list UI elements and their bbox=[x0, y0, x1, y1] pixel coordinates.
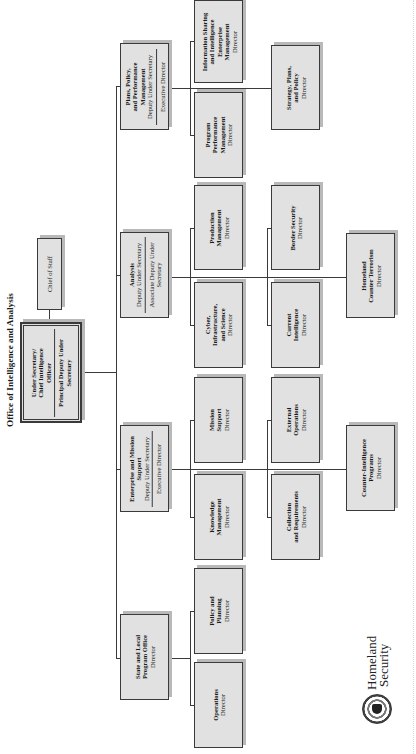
chart-title: Office of Intelligence and Analysis bbox=[4, 285, 16, 435]
box-name: External bbox=[284, 379, 291, 461]
homeland-counter-terrorism-box: Homeland Counter Terrorism Director bbox=[346, 233, 395, 318]
connector-state-main bbox=[169, 658, 190, 659]
connector-analysis-bracket1 bbox=[190, 228, 191, 325]
box-name: Planning bbox=[215, 570, 222, 652]
logo-line-2: Security bbox=[378, 620, 390, 690]
box-name: Program bbox=[204, 94, 211, 176]
box-name: Homeland bbox=[359, 235, 366, 317]
box-name: Management bbox=[222, 2, 229, 82]
state-local-program-office-box: State and Local Program Office Director bbox=[120, 614, 169, 700]
operations-box: Operations Director bbox=[194, 662, 243, 748]
external-operations-box: External Operations Director bbox=[271, 377, 320, 463]
cyber-infrastructure-box: Cyber, Infrastructure, and Science Direc… bbox=[194, 282, 243, 368]
box-name: and Policy bbox=[292, 48, 299, 128]
box-role: Deputy Under Secretary bbox=[146, 45, 153, 129]
box-name: Performance bbox=[211, 94, 218, 176]
strategy-plans-box: Strategy, Plans, and Policy Director bbox=[271, 45, 320, 130]
principal-deputy-title-2: Secretary bbox=[65, 325, 72, 421]
box-name: Policy and bbox=[207, 570, 214, 652]
plans-policy-box: Plans, Policy, and Performance Managemen… bbox=[120, 43, 169, 130]
box-name: Strategy, Plans, bbox=[284, 48, 291, 128]
box-role: Director bbox=[222, 570, 229, 652]
box-name: Operations bbox=[211, 664, 218, 746]
box-role: Director bbox=[222, 476, 229, 558]
info-sharing-box: Information Sharing and Intelligence Ent… bbox=[194, 0, 243, 83]
box-name: Analysis bbox=[127, 233, 134, 317]
box-role: Director bbox=[226, 94, 233, 176]
box-name: and Science bbox=[219, 284, 226, 366]
dhs-seal-icon bbox=[362, 694, 392, 724]
connector-enterprise-bracket1 bbox=[190, 420, 191, 517]
box-name: Knowledge bbox=[207, 476, 214, 558]
divider bbox=[144, 237, 145, 313]
chief-of-staff-label: Chief of Staff bbox=[46, 239, 53, 309]
policy-planning-box: Policy and Planning Director bbox=[194, 568, 243, 654]
box-name: and Performance bbox=[131, 45, 138, 129]
under-secretary-title-3: Officer bbox=[45, 325, 52, 421]
principal-deputy-title: Principal Deputy Under bbox=[57, 325, 64, 421]
chief-of-staff-box: Chief of Staff bbox=[37, 238, 62, 310]
box-name: Management bbox=[215, 476, 222, 558]
under-secretary-title: Under Secretary/ bbox=[30, 325, 37, 421]
under-secretary-box: Under Secretary/ Chief Intelligence Offi… bbox=[20, 322, 82, 423]
box-name: Intelligence bbox=[292, 284, 299, 366]
connector-trunk bbox=[116, 86, 117, 659]
box-role: Deputy Under Secretary bbox=[142, 427, 149, 511]
box-name: Counter Terrorism bbox=[367, 235, 374, 317]
collection-requirements-box: Collection and Requirements Director bbox=[271, 474, 320, 560]
box-role: Director bbox=[299, 379, 306, 461]
connector-plans-bracket bbox=[190, 41, 191, 135]
production-management-box: Production Management Director bbox=[194, 185, 243, 270]
box-name: Enterprise and Mission bbox=[127, 427, 134, 511]
box-name: and Intelligence bbox=[207, 2, 214, 82]
box-role: Associate Deputy Under bbox=[147, 233, 154, 317]
box-name: Cyber, bbox=[204, 284, 211, 366]
box-role: Executive Director bbox=[158, 45, 165, 129]
connector-chief-of-staff bbox=[49, 310, 50, 322]
box-role: Director bbox=[222, 188, 229, 268]
program-performance-box: Program Performance Management Director bbox=[194, 92, 243, 178]
analysis-box: Analysis Deputy Under Secretary Associat… bbox=[120, 232, 169, 318]
box-role: Director bbox=[374, 235, 381, 317]
divider bbox=[155, 49, 156, 125]
box-name: Management bbox=[215, 188, 222, 268]
box-name: Program Office bbox=[141, 616, 148, 698]
box-name: and Requirements bbox=[292, 476, 299, 558]
box-name: Operations bbox=[292, 379, 299, 461]
connector-analysis-bracket2 bbox=[267, 228, 268, 325]
box-name: Management bbox=[219, 94, 226, 176]
connector-state-bracket bbox=[190, 611, 191, 705]
box-name: State and Local bbox=[133, 616, 140, 698]
page-edge-dots bbox=[413, 0, 414, 754]
box-name: Enterprise bbox=[215, 2, 222, 82]
box-name: Mission bbox=[207, 379, 214, 461]
box-role: Director bbox=[296, 188, 303, 268]
box-role: Director bbox=[299, 476, 306, 558]
box-role: Director bbox=[226, 284, 233, 366]
box-name: Infrastructure, bbox=[211, 284, 218, 366]
box-role: Director bbox=[219, 664, 226, 746]
box-name: Information Sharing bbox=[200, 2, 207, 82]
box-name: Collection bbox=[284, 476, 291, 558]
box-name: Management bbox=[138, 45, 145, 129]
box-role: Secretary bbox=[154, 233, 161, 317]
box-name: Counter-Intelligence bbox=[359, 427, 366, 509]
knowledge-management-box: Knowledge Management Director bbox=[194, 474, 243, 560]
box-role: Director bbox=[230, 2, 237, 82]
box-name: Border Security bbox=[288, 188, 295, 268]
box-role: Director bbox=[299, 48, 306, 128]
connector-enterprise-bracket2 bbox=[267, 420, 268, 517]
box-role: Director bbox=[374, 427, 381, 509]
connector-enterprise-main bbox=[169, 469, 346, 470]
box-role: Director bbox=[148, 616, 155, 698]
box-name: Plans, Policy, bbox=[124, 45, 131, 129]
box-name: Programs bbox=[367, 427, 374, 509]
box-name: Current bbox=[284, 284, 291, 366]
box-name: Production bbox=[207, 188, 214, 268]
connector-plans-main bbox=[169, 88, 271, 89]
current-intelligence-box: Current Intelligence Director bbox=[271, 282, 320, 368]
box-name: Support bbox=[135, 427, 142, 511]
enterprise-mission-support-box: Enterprise and Mission Support Deputy Un… bbox=[120, 425, 169, 512]
border-security-box: Border Security Director bbox=[271, 185, 320, 270]
under-secretary-title-2: Chief Intelligence bbox=[37, 325, 44, 421]
